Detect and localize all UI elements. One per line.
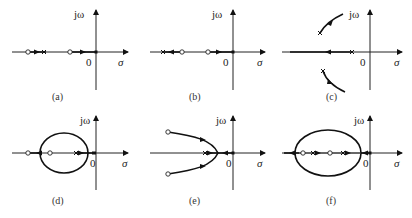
imag-axis-label: jω [73,8,84,20]
real-axis-label: σ [257,157,263,169]
zero-marker [301,151,305,155]
origin-label: 0 [360,56,366,68]
panel-caption: (d) [52,195,64,207]
zero-marker [206,50,210,54]
panel-caption: (c) [326,91,337,103]
real-axis-label: σ [394,56,400,68]
zero-marker [26,151,30,155]
real-axis-label: σ [394,157,400,169]
origin-label: 0 [363,157,369,169]
locus-arrow [36,151,42,156]
locus-arrow [207,151,213,156]
panel-caption: (b) [189,91,201,103]
zero-marker [48,151,52,155]
locus-arrow [34,50,40,55]
locus-arrow [78,151,84,156]
locus-arrow [345,151,351,156]
locus-arrow [289,151,295,156]
pole-marker [95,51,98,54]
panel-a: jω σ 0 (a) [12,8,128,103]
locus-branch-lower [323,71,345,92]
real-axis-label: σ [118,56,124,68]
locus-arrow [168,50,174,55]
pole-marker [369,152,372,155]
panel-caption: (f) [326,195,336,207]
imag-axis-label: jω [211,8,222,20]
panel-e: jω σ 0 (e) [150,114,265,207]
pole-marker [232,152,235,155]
real-axis-label: σ [122,157,128,169]
imag-axis-label: jω [348,8,359,20]
origin-label: 0 [86,56,92,68]
imag-axis-label: jω [79,114,90,126]
locus-arrow [222,151,228,156]
locus-arrow [327,79,333,84]
pole-marker [232,51,235,54]
panel-b: jω σ 0 (b) [150,8,265,103]
locus-arrow [80,50,86,55]
imag-axis-label: jω [353,114,364,126]
origin-label: 0 [90,157,96,169]
imag-axis-label: jω [215,114,226,126]
root-locus-figure: jω σ 0 (a) jω σ 0 (b) jω σ 0 [0,0,412,218]
real-axis-label: σ [257,56,263,68]
locus-arrow [216,50,222,55]
zero-marker [166,130,170,134]
zero-marker [328,151,332,155]
zero-marker [26,50,30,54]
origin-label: 0 [223,56,229,68]
pole-marker [92,152,96,155]
panel-f: jω σ 0 (f) [282,114,402,207]
zero-marker [68,50,72,54]
panel-caption: (e) [189,195,200,207]
locus-arrow [362,151,368,156]
origin-label: 0 [226,157,232,169]
zero-marker [166,172,170,176]
panel-d: jω σ 0 (d) [12,114,128,207]
panel-c: jω σ 0 (c) [282,8,402,103]
panel-caption: (a) [52,91,63,103]
locus-arrow [325,50,331,55]
zero-marker [180,50,184,54]
locus-arrow [315,151,321,156]
